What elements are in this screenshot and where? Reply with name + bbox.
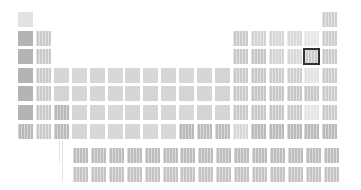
actinide-cell[interactable] [109,167,124,182]
element-cell[interactable] [54,86,69,101]
element-cell-selected[interactable] [303,48,320,65]
element-cell[interactable] [287,49,302,64]
element-cell[interactable] [215,86,230,101]
element-cell[interactable] [72,86,87,101]
element-cell[interactable] [269,124,284,139]
element-cell[interactable] [322,68,337,83]
actinide-cell[interactable] [198,167,213,182]
lanthanide-cell[interactable] [127,148,142,163]
lanthanide-cell[interactable] [234,148,249,163]
element-cell[interactable] [72,105,87,120]
element-cell[interactable] [233,31,248,46]
actinide-cell[interactable] [306,167,321,182]
element-cell[interactable] [179,124,194,139]
element-cell[interactable] [322,12,337,27]
element-cell[interactable] [18,49,33,64]
actinide-cell[interactable] [324,167,339,182]
element-cell[interactable] [322,31,337,46]
element-cell[interactable] [18,124,33,139]
element-cell[interactable] [54,124,69,139]
element-cell[interactable] [215,105,230,120]
element-cell[interactable] [322,105,337,120]
element-cell[interactable] [143,124,158,139]
element-cell[interactable] [54,105,69,120]
element-cell[interactable] [304,124,319,139]
element-cell[interactable] [233,68,248,83]
element-cell[interactable] [36,86,51,101]
lanthanide-cell[interactable] [91,148,106,163]
actinide-cell[interactable] [180,167,195,182]
element-cell[interactable] [36,124,51,139]
lanthanide-cell[interactable] [180,148,195,163]
element-cell[interactable] [197,105,212,120]
element-cell[interactable] [125,86,140,101]
element-cell[interactable] [304,105,319,120]
element-cell[interactable] [125,124,140,139]
element-cell[interactable] [54,68,69,83]
lanthanide-cell[interactable] [324,148,339,163]
element-cell[interactable] [125,68,140,83]
lanthanide-cell[interactable] [198,148,213,163]
lanthanide-cell[interactable] [288,148,303,163]
element-cell[interactable] [233,86,248,101]
element-cell[interactable] [269,49,284,64]
element-cell[interactable] [251,105,266,120]
actinide-cell[interactable] [163,167,178,182]
lanthanide-cell[interactable] [145,148,160,163]
element-cell[interactable] [108,105,123,120]
element-cell[interactable] [72,124,87,139]
element-cell[interactable] [36,31,51,46]
element-cell[interactable] [197,86,212,101]
element-cell[interactable] [251,68,266,83]
actinide-cell[interactable] [252,167,267,182]
element-cell[interactable] [215,68,230,83]
element-cell[interactable] [36,105,51,120]
element-cell[interactable] [304,86,319,101]
element-cell[interactable] [322,124,337,139]
lanthanide-cell[interactable] [270,148,285,163]
element-cell[interactable] [90,124,105,139]
element-cell[interactable] [90,105,105,120]
element-cell[interactable] [197,124,212,139]
element-cell[interactable] [251,49,266,64]
lanthanide-cell[interactable] [252,148,267,163]
element-cell[interactable] [36,49,51,64]
element-cell[interactable] [161,68,176,83]
element-cell[interactable] [179,86,194,101]
element-cell[interactable] [251,124,266,139]
element-cell[interactable] [108,124,123,139]
element-cell[interactable] [233,105,248,120]
actinide-cell[interactable] [73,167,88,182]
element-cell[interactable] [143,68,158,83]
element-cell[interactable] [251,31,266,46]
element-cell[interactable] [72,68,87,83]
element-cell[interactable] [143,105,158,120]
element-cell[interactable] [143,86,158,101]
element-cell[interactable] [322,49,337,64]
element-cell[interactable] [304,31,319,46]
actinide-cell[interactable] [145,167,160,182]
element-cell[interactable] [233,124,248,139]
element-cell[interactable] [179,68,194,83]
element-cell[interactable] [287,68,302,83]
element-cell[interactable] [269,86,284,101]
element-cell[interactable] [215,124,230,139]
actinide-cell[interactable] [234,167,249,182]
actinide-cell[interactable] [216,167,231,182]
element-cell[interactable] [18,31,33,46]
lanthanide-cell[interactable] [216,148,231,163]
actinide-cell[interactable] [127,167,142,182]
lanthanide-cell[interactable] [163,148,178,163]
element-cell[interactable] [161,86,176,101]
lanthanide-cell[interactable] [306,148,321,163]
element-cell[interactable] [108,68,123,83]
element-cell[interactable] [90,86,105,101]
element-cell[interactable] [125,105,140,120]
element-cell[interactable] [90,68,105,83]
element-cell[interactable] [304,68,319,83]
element-cell[interactable] [18,86,33,101]
lanthanide-cell[interactable] [109,148,124,163]
element-cell[interactable] [287,105,302,120]
lanthanide-cell[interactable] [73,148,88,163]
element-cell[interactable] [287,86,302,101]
